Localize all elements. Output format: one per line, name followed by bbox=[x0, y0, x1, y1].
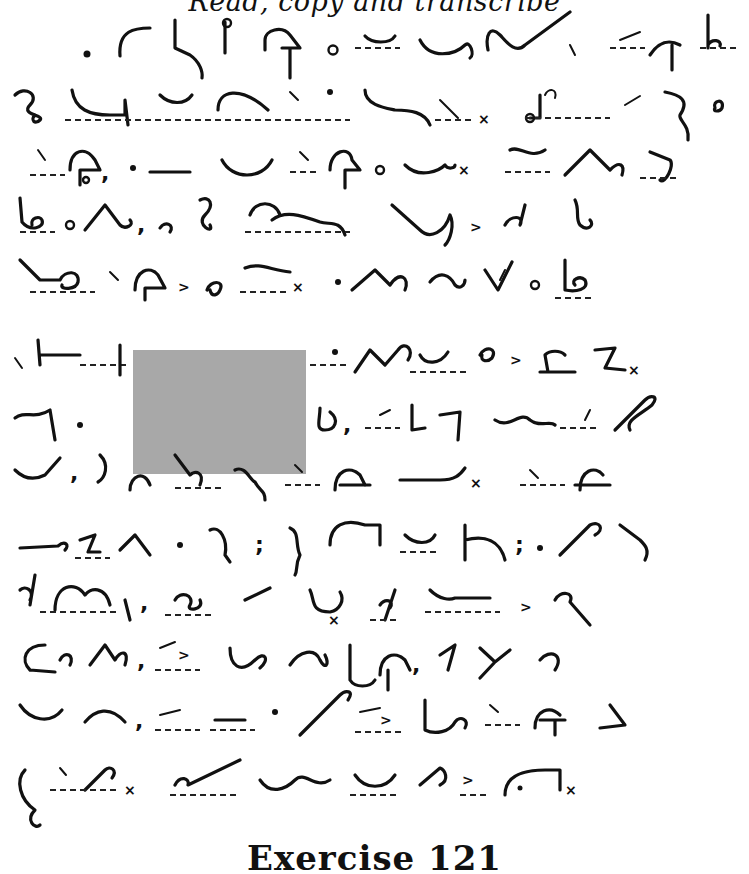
svg-text:×: × bbox=[470, 475, 482, 491]
svg-text:,: , bbox=[412, 652, 420, 677]
svg-text:×: × bbox=[328, 612, 340, 628]
shorthand-line-8: , × bbox=[15, 455, 610, 500]
svg-text:×: × bbox=[124, 782, 136, 798]
svg-text:>: > bbox=[178, 647, 190, 663]
svg-text:,: , bbox=[137, 212, 145, 237]
svg-text:>: > bbox=[380, 712, 392, 728]
shorthand-line-11: , > , bbox=[25, 642, 558, 690]
shorthand-line-10: , × > bbox=[20, 575, 590, 628]
svg-text:;: ; bbox=[515, 532, 524, 557]
svg-text:×: × bbox=[565, 782, 577, 798]
svg-text:,: , bbox=[101, 160, 109, 185]
svg-text:×: × bbox=[628, 362, 640, 378]
svg-text:,: , bbox=[140, 590, 148, 615]
exercise-number: Exercise 121 bbox=[0, 838, 749, 874]
shorthand-line-9: ; ; bbox=[20, 522, 647, 575]
shorthand-line-5: > × bbox=[20, 260, 595, 300]
svg-text:,: , bbox=[137, 648, 145, 673]
svg-text:>: > bbox=[462, 772, 474, 788]
shorthand-line-2: × bbox=[15, 89, 722, 140]
svg-text:,: , bbox=[343, 412, 351, 437]
svg-text:×: × bbox=[458, 162, 470, 178]
svg-text:>: > bbox=[510, 352, 522, 368]
shorthand-line-13: × > × bbox=[20, 760, 577, 826]
shorthand-line-6: > × bbox=[15, 340, 640, 378]
svg-text:,: , bbox=[135, 708, 143, 733]
shorthand-line-1 bbox=[84, 12, 741, 78]
svg-text:×: × bbox=[478, 111, 490, 127]
svg-text:>: > bbox=[178, 279, 190, 295]
shorthand-line-4: , > bbox=[20, 198, 592, 245]
svg-text:>: > bbox=[470, 219, 482, 235]
svg-text:>: > bbox=[520, 599, 532, 615]
shorthand-line-3: , × bbox=[30, 149, 680, 188]
svg-text:,: , bbox=[70, 460, 78, 485]
shorthand-line-7: , bbox=[15, 397, 655, 440]
svg-text:;: ; bbox=[255, 532, 264, 557]
shorthand-line-12: , > bbox=[20, 692, 625, 735]
svg-text:×: × bbox=[292, 279, 304, 295]
